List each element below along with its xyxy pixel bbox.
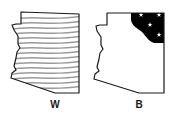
wavy-line-pattern bbox=[10, 16, 82, 90]
map-b bbox=[94, 12, 164, 93]
map-label-b: B bbox=[135, 100, 142, 110]
maps-canvas bbox=[0, 0, 172, 115]
map-label-w: W bbox=[50, 100, 59, 110]
map-w bbox=[10, 12, 82, 93]
